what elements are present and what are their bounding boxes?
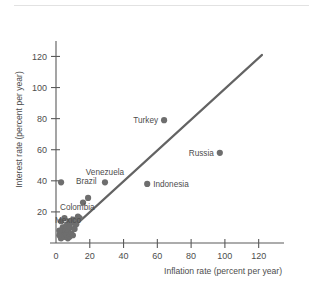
y-axis-tick-label: 60 — [37, 145, 47, 155]
data-point — [161, 117, 167, 123]
point-label-brazil: Brazil — [76, 177, 97, 186]
data-point — [71, 226, 77, 232]
x-axis-tick-label: 100 — [217, 251, 232, 261]
forty-five-degree-reference-line — [59, 55, 262, 240]
point-label-indonesia: Indonesia — [153, 180, 189, 189]
axis-titles: Inflation rate (percent per year)Interes… — [14, 71, 282, 276]
data-point — [217, 150, 223, 156]
x-axis-tick-label: 60 — [152, 251, 162, 261]
x-axis-tick-label: 80 — [186, 251, 196, 261]
x-axis-title: Inflation rate (percent per year) — [164, 266, 282, 276]
chart-figure: 20406080100120020406080100120 TurkeyRuss… — [0, 0, 321, 287]
x-axis-tick-label: 120 — [251, 251, 266, 261]
data-point — [144, 181, 150, 187]
y-axis-tick-label: 20 — [37, 207, 47, 217]
data-point — [70, 232, 76, 238]
data-point — [56, 227, 62, 233]
x-axis-tick-label: 40 — [119, 251, 129, 261]
x-axis-tick-label: 20 — [85, 251, 95, 261]
point-label-turkey: Turkey — [133, 116, 159, 125]
y-axis-tick-label: 40 — [37, 176, 47, 186]
point-label-mexico: Mexico — [55, 216, 81, 225]
y-axis-tick-label: 100 — [32, 83, 47, 93]
data-point — [102, 179, 108, 185]
data-point — [85, 195, 91, 201]
y-axis-tick-label: 120 — [32, 52, 47, 62]
point-label-russia: Russia — [189, 149, 214, 158]
point-label-venezuela: Venezuela — [86, 168, 125, 177]
scatter-plot: 20406080100120020406080100120 TurkeyRuss… — [0, 0, 321, 287]
y-axis-tick-label: 80 — [37, 114, 47, 124]
point-label-colombia: Colombia — [60, 203, 95, 212]
reference-line — [59, 55, 262, 240]
x-axis-tick-label: 0 — [53, 251, 58, 261]
data-point — [58, 179, 64, 185]
y-axis-title: Interest rate (percent per year) — [14, 71, 24, 188]
